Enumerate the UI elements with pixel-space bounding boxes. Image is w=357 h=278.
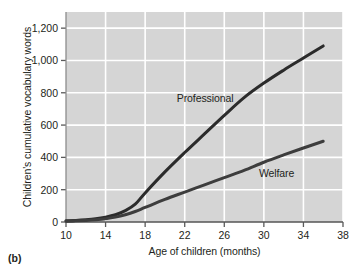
x-tick-label: 34 [288,230,318,241]
panel-label: (b) [8,252,21,264]
x-tick-label: 18 [130,230,160,241]
data-series [66,46,323,221]
x-tick-label: 38 [328,230,357,241]
x-axis-title: Age of children (months) [66,245,343,257]
x-tick-label: 10 [51,230,81,241]
y-axis-title: Children's cumulative vocabulary words [18,12,36,222]
series-label-professional: Professional [177,92,234,104]
figure-panel: 02004006008001,0001,200 1014182226303438… [0,0,357,278]
x-tick-label: 26 [209,230,239,241]
gridlines [66,12,343,222]
series-line-welfare [66,141,323,221]
x-tick-label: 14 [91,230,121,241]
axis-lines [66,12,343,222]
series-label-welfare: Welfare [259,167,294,179]
x-tick-label: 22 [170,230,200,241]
series-line-professional [66,46,323,221]
x-tick-label: 30 [249,230,279,241]
